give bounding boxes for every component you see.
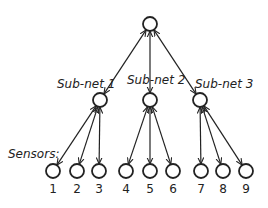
- sensor-node-2: [70, 164, 84, 178]
- sensor-number-6: 6: [169, 182, 177, 196]
- sensor-number-1: 1: [49, 182, 57, 196]
- edge-subnet-sensor-6: [152, 107, 171, 165]
- edge-subnet-sensor-3: [99, 107, 100, 164]
- sensor-node-6: [166, 164, 180, 178]
- sensor-node-9: [239, 164, 253, 178]
- subnet-node-3: [193, 93, 207, 107]
- sensor-number-3: 3: [95, 182, 103, 196]
- edge-subnet-sensor-7: [200, 107, 201, 164]
- sensor-number-9: 9: [242, 182, 250, 196]
- sensor-number-8: 8: [219, 182, 227, 196]
- subnet-node-1: [93, 93, 107, 107]
- sensor-number-5: 5: [146, 182, 154, 196]
- sensor-node-5: [143, 164, 157, 178]
- sensor-node-7: [194, 164, 208, 178]
- subnet-label-3: Sub-net 3: [195, 77, 253, 91]
- subnet-label-1: Sub-net 1: [57, 77, 115, 91]
- sensor-number-4: 4: [122, 182, 130, 196]
- root-node: [143, 17, 157, 31]
- sensor-node-1: [46, 164, 60, 178]
- subnet-node-2: [143, 93, 157, 107]
- sensor-node-8: [216, 164, 230, 178]
- edge-subnet-sensor-2: [79, 107, 98, 165]
- edge-subnet-sensor-9: [204, 106, 242, 165]
- sensor-number-7: 7: [197, 182, 205, 196]
- edge-subnet-sensor-4: [128, 107, 148, 165]
- sensor-node-4: [119, 164, 133, 178]
- sensor-node-3: [92, 164, 106, 178]
- subnet-label-2: Sub-net 2: [127, 73, 185, 87]
- diagram-edges: [0, 0, 268, 208]
- sensors-label: Sensors:: [8, 147, 59, 161]
- sensor-number-2: 2: [73, 182, 81, 196]
- edge-subnet-sensor-8: [202, 107, 221, 165]
- network-diagram: Sub-net 1Sub-net 2Sub-net 3123456789 Sen…: [0, 0, 268, 208]
- edge-subnet-sensor-1: [57, 106, 96, 165]
